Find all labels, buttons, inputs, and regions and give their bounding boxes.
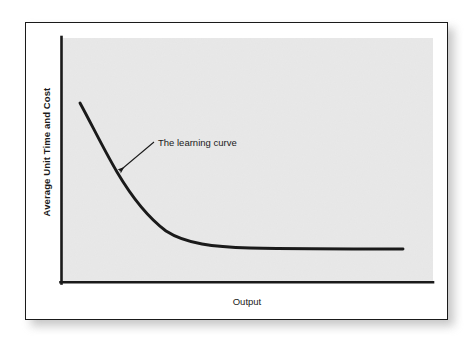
x-axis-title: Output <box>233 296 262 307</box>
curve-annotation-label: The learning curve <box>158 137 237 148</box>
learning-curve-figure: Average Unit Time and Cost Output The le… <box>0 0 470 345</box>
plot-area-texture <box>61 38 433 283</box>
chart-canvas <box>0 0 470 345</box>
y-axis-title: Average Unit Time and Cost <box>41 88 52 217</box>
